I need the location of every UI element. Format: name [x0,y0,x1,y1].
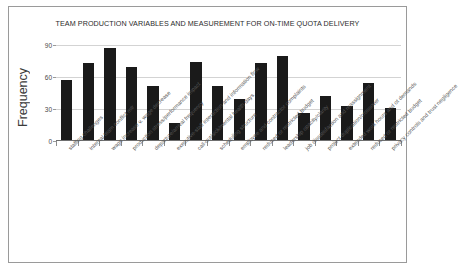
y-axis-title: Frequency [15,54,31,140]
x-axis-labels: staffing challengesinternal team conflic… [56,147,401,267]
chart-frame: TEAM PRODUCTION VARIABLES AND MEASUREMEN… [8,6,407,263]
y-axis-tick-label: 60 [45,74,52,81]
bar-slot [56,45,78,141]
chart-title: TEAM PRODUCTION VARIABLES AND MEASUREMEN… [9,19,406,28]
y-axis-tick-label: 90 [45,42,52,49]
y-axis-tick-label: 0 [48,138,52,145]
bar [61,80,72,141]
y-axis-tick-label: 30 [45,106,52,113]
x-axis-tick-mark [56,141,57,146]
